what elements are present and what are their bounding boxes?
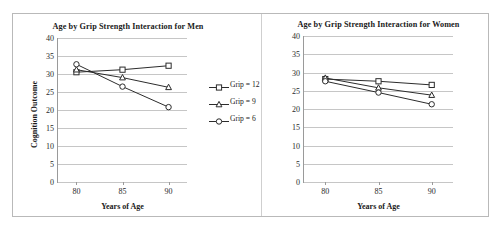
y-tick-label: 10 — [46, 142, 54, 151]
circle-marker — [209, 113, 229, 124]
circle-marker — [216, 119, 221, 124]
x-tick-label: 80 — [321, 187, 329, 196]
chart-title-women: Age by Grip Strength Interaction for Wom… — [271, 20, 486, 29]
figure-frame: Age by Grip Strength Interaction for Men… — [12, 13, 489, 217]
y-tick-label: 10 — [292, 141, 300, 150]
y-tick-label: 30 — [292, 68, 300, 77]
x-tick-label: 80 — [72, 187, 80, 196]
x-tick-label: 90 — [428, 187, 436, 196]
y-tick-label: 30 — [46, 70, 54, 79]
x-tick — [379, 182, 380, 185]
y-tick-label: 5 — [50, 160, 54, 169]
circle-marker — [166, 104, 171, 109]
series-layer-men — [58, 38, 187, 182]
x-tick — [325, 182, 326, 185]
x-tick — [123, 182, 124, 185]
series-layer-women — [304, 36, 453, 182]
y-tick-label: 15 — [46, 124, 54, 133]
y-tick-label: 25 — [292, 86, 300, 95]
square-marker — [166, 63, 171, 68]
x-tick-label: 90 — [165, 187, 173, 196]
x-tick-label: 85 — [119, 187, 127, 196]
x-axis-title-men: Years of Age — [58, 202, 187, 211]
x-tick — [432, 182, 433, 185]
y-tick-label: 40 — [292, 32, 300, 41]
y-tick-label: 15 — [292, 123, 300, 132]
chart-panel-women: Age by Grip Strength Interaction for Wom… — [261, 14, 490, 216]
circle-marker — [376, 90, 381, 95]
triangle-marker — [209, 96, 229, 107]
y-tick-label: 25 — [46, 88, 54, 97]
series-grip-12 — [74, 63, 171, 75]
chart-title-men: Age by Grip Strength Interaction for Men — [33, 22, 223, 31]
circle-marker — [323, 79, 328, 84]
y-tick-label: 20 — [46, 106, 54, 115]
x-tick — [76, 182, 77, 185]
y-axis-title-men: Cognition Outcome — [30, 65, 39, 165]
square-marker — [209, 79, 229, 90]
square-marker — [120, 67, 125, 72]
y-tick-label: 35 — [46, 52, 54, 61]
legend-item-label: Grip = 9 — [230, 97, 256, 106]
y-tick-label: 5 — [296, 159, 300, 168]
circle-marker — [74, 62, 79, 67]
chart-panel-men: Age by Grip Strength Interaction for Men… — [13, 14, 261, 216]
y-tick-label: 35 — [292, 50, 300, 59]
x-tick — [169, 182, 170, 185]
square-marker — [429, 82, 434, 87]
legend-item-label: Grip = 6 — [230, 114, 256, 123]
square-marker — [216, 85, 221, 90]
x-axis-title-women: Years of Age — [304, 202, 453, 211]
legend-item-label: Grip = 12 — [230, 80, 260, 89]
circle-marker — [429, 102, 434, 107]
plot-area-women: 4035302520151050 808590 Years of Age — [303, 36, 453, 183]
x-tick-label: 85 — [375, 187, 383, 196]
circle-marker — [120, 84, 125, 89]
plot-area-men: 4035302520151050 808590 Years of Age — [57, 38, 187, 183]
y-tick-label: 0 — [50, 178, 54, 187]
y-tick-label: 0 — [296, 178, 300, 187]
y-tick-label: 40 — [46, 34, 54, 43]
y-tick-label: 20 — [292, 105, 300, 114]
square-marker — [376, 79, 381, 84]
